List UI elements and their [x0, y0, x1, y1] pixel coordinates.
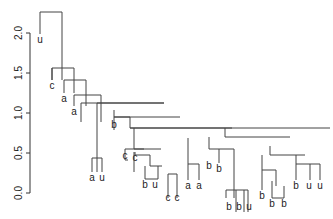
leaf-label: b [269, 198, 275, 209]
leaf-label: u [37, 34, 43, 45]
dendrogram-chart: 0.0 0.5 1.0 1.5 2.0 [0, 0, 333, 219]
leaf-label: a [71, 106, 77, 117]
leaf-label: b [226, 201, 232, 212]
leaf-label: c [50, 80, 55, 91]
leaf-label: c [175, 192, 180, 203]
leaf-label: u [317, 180, 323, 191]
leaf-label: b [236, 201, 242, 212]
leaf-label: a [61, 93, 67, 104]
y-tick-4: 2.0 [13, 26, 24, 40]
y-tick-0: 0.0 [13, 186, 24, 200]
y-tick-labels: 0.0 0.5 1.0 1.5 2.0 [13, 26, 24, 200]
leaf-label: u [306, 180, 312, 191]
leaf-label: b [111, 119, 117, 130]
leaf-label: u [246, 201, 252, 212]
y-axis [26, 33, 30, 193]
leaf-label: b [206, 160, 212, 171]
leaf-label: a [196, 180, 202, 191]
leaf-label: a [185, 180, 191, 191]
leaf-label: c [123, 150, 128, 161]
y-tick-1: 0.5 [13, 146, 24, 160]
leaf-label: u [99, 172, 105, 183]
leaf-label: b [216, 163, 222, 174]
leaf-label: b [259, 190, 265, 201]
leaf-label: c [133, 152, 138, 163]
y-tick-2: 1.0 [13, 106, 24, 120]
leaf-label: c [166, 192, 171, 203]
leaf-label: u [152, 179, 158, 190]
leaf-label: b [281, 198, 287, 209]
leaf-labels: u c a a a u b c c b u c c a a b b b b u … [37, 34, 323, 212]
leaf-label: b [293, 180, 299, 191]
leaf-label: a [89, 172, 95, 183]
leaf-label: b [142, 179, 148, 190]
y-tick-3: 1.5 [13, 66, 24, 80]
